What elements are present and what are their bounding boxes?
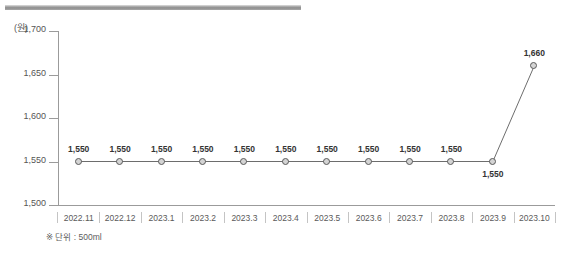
chart-footnote: ※ 단위 : 500ml bbox=[46, 230, 102, 242]
series-line bbox=[58, 31, 555, 205]
y-axis-tick-mark bbox=[49, 31, 58, 32]
y-axis-tick-label: 1,600 bbox=[23, 111, 46, 121]
y-axis-tick-mark bbox=[49, 75, 58, 76]
data-point-label: 1,550 bbox=[399, 144, 420, 154]
data-point-label: 1,550 bbox=[151, 144, 172, 154]
data-point-marker[interactable] bbox=[116, 158, 123, 165]
x-axis-category-label: 2023.3 bbox=[224, 209, 265, 227]
data-point-marker[interactable] bbox=[282, 158, 289, 165]
data-point-marker[interactable] bbox=[489, 158, 496, 165]
data-point-label: 1,550 bbox=[234, 144, 255, 154]
data-point-marker[interactable] bbox=[447, 158, 454, 165]
y-axis-tick-label: 1,700 bbox=[23, 24, 46, 34]
y-axis-tick-mark bbox=[49, 205, 58, 206]
data-point-label: 1,550 bbox=[317, 144, 338, 154]
data-point-label: 1,550 bbox=[441, 144, 462, 154]
x-axis-category-label: 2023.9 bbox=[472, 209, 513, 227]
x-axis-category-label: 2023.6 bbox=[348, 209, 389, 227]
x-axis-category-label: 2023.2 bbox=[182, 209, 223, 227]
data-point-label: 1,550 bbox=[192, 144, 213, 154]
line-chart: (원) 1,7001,6501,6001,5501,500 1,5501,550… bbox=[0, 0, 567, 255]
data-point-marker[interactable] bbox=[158, 158, 165, 165]
x-axis-category-label: 2022.11 bbox=[58, 209, 99, 227]
data-point-label: 1,550 bbox=[482, 169, 503, 179]
x-axis-category-label: 2023.8 bbox=[431, 209, 472, 227]
x-axis-category-label: 2023.5 bbox=[307, 209, 348, 227]
y-axis-tick-label: 1,500 bbox=[23, 198, 46, 208]
x-axis-category-label: 2022.12 bbox=[99, 209, 140, 227]
data-point-marker[interactable] bbox=[365, 158, 372, 165]
data-point-marker[interactable] bbox=[240, 158, 247, 165]
data-point-label: 1,550 bbox=[68, 144, 89, 154]
x-axis-separator bbox=[555, 212, 556, 223]
x-axis-line bbox=[58, 205, 555, 206]
y-axis-tick-mark bbox=[49, 118, 58, 119]
y-axis-tick-label: 1,650 bbox=[23, 68, 46, 78]
data-point-label: 1,550 bbox=[109, 144, 130, 154]
data-point-marker[interactable] bbox=[406, 158, 413, 165]
plot-area: 1,5501,5501,5501,5501,5501,5501,5501,550… bbox=[58, 31, 555, 205]
data-point-label: 1,550 bbox=[275, 144, 296, 154]
x-axis-category-labels: 2022.112022.122023.12023.22023.32023.420… bbox=[58, 209, 555, 227]
x-axis-category-label: 2023.10 bbox=[514, 209, 555, 227]
x-axis-separator bbox=[57, 212, 58, 223]
data-point-label: 1,550 bbox=[358, 144, 379, 154]
x-axis-category-label: 2023.7 bbox=[389, 209, 430, 227]
data-point-marker[interactable] bbox=[199, 158, 206, 165]
x-axis-category-label: 2023.1 bbox=[141, 209, 182, 227]
x-axis-category-label: 2023.4 bbox=[265, 209, 306, 227]
y-axis-tick-mark bbox=[49, 162, 58, 163]
y-axis-tick-label: 1,550 bbox=[23, 155, 46, 165]
data-point-label: 1,660 bbox=[524, 48, 545, 58]
data-point-marker[interactable] bbox=[75, 158, 82, 165]
data-point-marker[interactable] bbox=[323, 158, 330, 165]
